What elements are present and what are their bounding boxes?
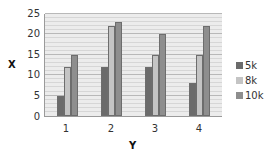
y-tick: 5	[18, 91, 40, 101]
gridline	[45, 13, 222, 14]
gridline	[45, 33, 222, 34]
bar-chart: 25 20 15 10 5 0 X 1 2 3 4 Y 5k 8k 10k	[0, 0, 272, 155]
y-tick: 25	[18, 9, 40, 19]
bar-10k-4	[203, 26, 210, 116]
y-axis-title: X	[8, 59, 16, 70]
gridline	[45, 21, 222, 22]
bar-8k-2	[108, 26, 115, 116]
gridline	[45, 25, 222, 26]
x-tick: 4	[189, 124, 209, 134]
y-tick: 15	[18, 50, 40, 60]
bar-5k-3	[145, 67, 152, 116]
bar-10k-3	[159, 34, 166, 116]
gridline	[45, 17, 222, 18]
gridline	[45, 50, 222, 51]
gridline	[45, 42, 222, 43]
legend-item-5k: 5k	[236, 58, 264, 73]
x-tick: 1	[56, 124, 76, 134]
legend-label: 8k	[245, 75, 257, 86]
x-tick: 2	[101, 124, 121, 134]
legend-swatch	[236, 77, 243, 84]
y-tick: 10	[18, 70, 40, 80]
bar-5k-2	[101, 67, 108, 116]
gridline	[45, 37, 222, 38]
y-tick: 0	[18, 112, 40, 122]
bar-10k-2	[115, 22, 122, 116]
legend-label: 5k	[245, 60, 257, 71]
bar-8k-4	[196, 55, 203, 116]
legend-label: 10k	[245, 90, 264, 101]
legend: 5k 8k 10k	[236, 58, 264, 103]
legend-item-8k: 8k	[236, 73, 264, 88]
legend-swatch	[236, 62, 243, 69]
x-axis-title: Y	[129, 140, 136, 151]
legend-swatch	[236, 92, 243, 99]
plot-area	[44, 14, 222, 117]
bar-5k-4	[189, 83, 196, 116]
bar-8k-3	[152, 55, 159, 116]
bar-8k-1	[64, 67, 71, 116]
x-tick: 3	[145, 124, 165, 134]
gridline	[45, 29, 222, 30]
bar-10k-1	[71, 55, 78, 116]
legend-item-10k: 10k	[236, 88, 264, 103]
bar-5k-1	[57, 96, 64, 116]
y-tick: 20	[18, 29, 40, 39]
gridline	[45, 46, 222, 47]
